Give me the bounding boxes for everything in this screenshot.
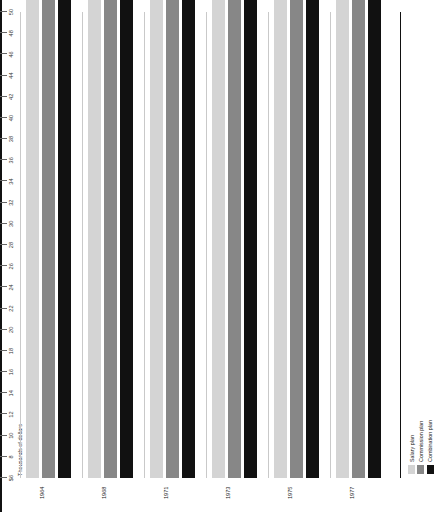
bar <box>352 0 365 478</box>
legend-item: Combination plan <box>427 420 434 474</box>
legend-item: Salary plan <box>408 420 415 474</box>
category-label: 1971 <box>163 487 169 499</box>
axis-tick <box>0 11 7 12</box>
axis-tick-label: 40 <box>8 115 14 121</box>
axis-tick-label: 26 <box>8 263 14 269</box>
bar <box>244 0 257 478</box>
category-label: 1964 <box>39 487 45 499</box>
category-label: 1975 <box>287 487 293 499</box>
legend-label: Combination plan <box>427 420 433 462</box>
axis-tick <box>0 202 7 203</box>
axis-tick <box>0 244 7 245</box>
bar-fill <box>306 0 319 478</box>
bar <box>306 0 319 478</box>
axis-tick-label: 18 <box>8 348 14 354</box>
legend-swatch <box>417 465 424 474</box>
axis-tick-label: 46 <box>8 51 14 57</box>
axis-tick-label: 16 <box>8 369 14 375</box>
bar <box>26 0 39 478</box>
axis-tick <box>0 413 7 414</box>
axis-tick <box>0 435 7 436</box>
bar-fill <box>58 0 71 478</box>
group-separator <box>82 12 83 478</box>
axis-tick <box>0 32 7 33</box>
axis-tick <box>0 96 7 97</box>
axis-tick-label: 50 <box>8 9 14 15</box>
bar-fill <box>290 0 303 478</box>
bar <box>58 0 71 478</box>
bar <box>212 0 225 478</box>
legend-item: Commission plan <box>417 420 424 474</box>
axis-tick <box>0 159 7 160</box>
bar <box>88 0 101 478</box>
bar <box>228 0 241 478</box>
axis-tick-label: 48 <box>8 30 14 36</box>
bar-fill <box>166 0 179 478</box>
axis-tick-label: 8 <box>8 455 14 458</box>
legend-swatch <box>408 465 415 474</box>
group-separator <box>206 12 207 478</box>
legend-label: Salary plan <box>409 435 415 462</box>
axis-tick <box>0 53 7 54</box>
axis-tick <box>0 286 7 287</box>
axis-tick-label: 42 <box>8 94 14 100</box>
bar-fill <box>336 0 349 478</box>
bar <box>104 0 117 478</box>
axis-tick-label: 36 <box>8 157 14 163</box>
category-label: 1977 <box>349 487 355 499</box>
bar-fill <box>212 0 225 478</box>
bar <box>290 0 303 478</box>
axis-tick-label: 14 <box>8 390 14 396</box>
plate-bottom-rule <box>400 12 401 478</box>
chart-legend: Salary planCommission planCombination pl… <box>408 420 434 474</box>
axis-tick-label: 32 <box>8 199 14 205</box>
axis-tick-label: 12 <box>8 411 14 417</box>
axis-tick <box>0 180 7 181</box>
axis-tick <box>0 371 7 372</box>
legend-label: Commission plan <box>418 421 424 462</box>
axis-tick <box>0 117 7 118</box>
bar <box>368 0 381 478</box>
axis-tick <box>0 138 7 139</box>
group-separator <box>330 12 331 478</box>
axis-tick <box>0 265 7 266</box>
bar-fill <box>120 0 133 478</box>
bar <box>274 0 287 478</box>
axis-tick-label: 20 <box>8 327 14 333</box>
category-label: 1968 <box>101 487 107 499</box>
bar-fill <box>104 0 117 478</box>
bar-fill <box>42 0 55 478</box>
axis-tick <box>0 477 7 478</box>
bar <box>120 0 133 478</box>
bar-fill <box>228 0 241 478</box>
bar <box>336 0 349 478</box>
group-separator <box>144 12 145 478</box>
group-separator <box>268 12 269 478</box>
axis-tick-label: 28 <box>8 242 14 248</box>
category-label: 1973 <box>225 487 231 499</box>
axis-tick-label: 22 <box>8 305 14 311</box>
bar <box>182 0 195 478</box>
axis-tick <box>0 308 7 309</box>
group-separator <box>20 12 21 478</box>
bar-fill <box>150 0 163 478</box>
bar-fill <box>244 0 257 478</box>
axis-tick-label: 24 <box>8 284 14 290</box>
axis-tick <box>0 392 7 393</box>
axis-tick <box>0 350 7 351</box>
bar-fill <box>26 0 39 478</box>
axis-tick <box>0 329 7 330</box>
axis-tick-label: 30 <box>8 221 14 227</box>
bar <box>150 0 163 478</box>
axis-tick <box>0 75 7 76</box>
axis-tick-label: 34 <box>8 178 14 184</box>
bar-fill <box>182 0 195 478</box>
bar-fill <box>274 0 287 478</box>
bar-fill <box>88 0 101 478</box>
bar-fill <box>352 0 365 478</box>
bar-fill <box>368 0 381 478</box>
axis-tick-label: 38 <box>8 136 14 142</box>
bar <box>166 0 179 478</box>
